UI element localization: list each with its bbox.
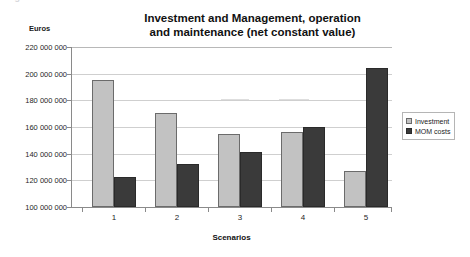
x-tick-mark <box>391 208 392 212</box>
x-tick-mark <box>271 208 272 212</box>
x-axis-title: Scenarios <box>71 233 392 242</box>
x-tick-mark <box>82 208 83 212</box>
y-tick-label: 180 000 000 <box>25 96 67 105</box>
legend-label-investment: Investment <box>415 117 449 126</box>
bar-mom-4[interactable] <box>303 127 325 207</box>
bar-investment-5[interactable] <box>344 171 366 207</box>
y-axis-unit-label: Euros <box>29 24 50 33</box>
bar-investment-2[interactable] <box>155 113 177 207</box>
chart-title-line-1: Investment and Management, operation <box>110 11 395 25</box>
x-axis-line <box>71 207 392 208</box>
chart-screenshot: Figure 4.11 Investment and MOM costs Inv… <box>0 0 470 257</box>
bar-mom-3[interactable] <box>240 152 262 207</box>
bar-mom-5[interactable] <box>366 68 388 207</box>
bars-layer <box>71 47 392 207</box>
y-axis-tick-labels: 220 000 000 200 000 000 180 000 000 160 … <box>0 47 67 208</box>
chart-title: Investment and Management, operation and… <box>110 11 395 39</box>
x-tick-mark <box>145 208 146 212</box>
y-tick-label: 160 000 000 <box>25 123 67 132</box>
bar-mom-2[interactable] <box>177 164 199 207</box>
y-axis-line <box>71 47 72 208</box>
y-tick-label: 200 000 000 <box>25 69 67 78</box>
plot-area: 1 2 3 4 5 <box>71 47 392 207</box>
figure-caption-cropped: Figure 4.11 Investment and MOM costs <box>0 0 470 8</box>
legend-swatch-icon <box>406 118 412 124</box>
x-tick-label-5: 5 <box>364 213 368 222</box>
x-tick-label-2: 2 <box>175 213 179 222</box>
legend-item-investment[interactable]: Investment <box>406 116 450 126</box>
x-tick-label-1: 1 <box>112 213 116 222</box>
x-tick-mark <box>334 208 335 212</box>
x-tick-label-3: 3 <box>238 213 242 222</box>
bar-mom-1[interactable] <box>114 177 136 207</box>
x-tick-label-4: 4 <box>301 213 305 222</box>
chart-title-line-2: and maintenance (net constant value) <box>110 25 395 39</box>
x-tick-mark <box>208 208 209 212</box>
bar-investment-1[interactable] <box>92 80 114 207</box>
y-tick-label: 120 000 000 <box>25 176 67 185</box>
y-tick-label: 140 000 000 <box>25 149 67 158</box>
y-tick-label: 220 000 000 <box>25 43 67 52</box>
legend-item-mom-costs[interactable]: MOM costs <box>406 126 450 136</box>
legend-label-mom-costs: MOM costs <box>415 127 450 136</box>
chart-legend: Investment MOM costs <box>402 112 455 140</box>
bar-investment-4[interactable] <box>281 132 303 207</box>
y-tick-label: 100 000 000 <box>25 203 67 212</box>
figure-caption-text: Figure 4.11 Investment and MOM costs <box>6 0 179 2</box>
legend-swatch-icon <box>406 128 412 134</box>
bar-investment-3[interactable] <box>218 134 240 207</box>
